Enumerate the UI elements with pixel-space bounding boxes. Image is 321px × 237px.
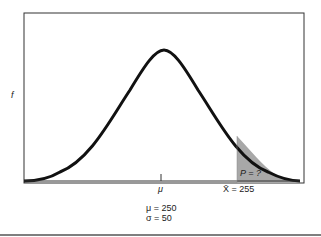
- mu-tick-label: μ: [157, 184, 163, 194]
- xbar-label: X̄ = 255: [223, 184, 254, 194]
- mu-value: μ = 250: [146, 203, 176, 213]
- plot-frame: [24, 13, 304, 183]
- y-axis-label: f: [11, 90, 15, 100]
- sigma-value: σ = 50: [146, 213, 172, 223]
- normal-distribution-diagram: f μ P = ? X̄ = 255 μ = 250 σ = 50: [0, 0, 321, 237]
- p-label: P = ?: [240, 168, 261, 178]
